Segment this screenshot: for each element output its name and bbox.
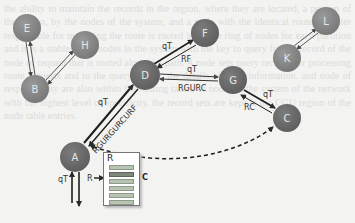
edge-label-d-f-query: qT bbox=[162, 42, 172, 51]
edge-label-a-in-query: qT bbox=[58, 175, 68, 184]
routing-table-title: R bbox=[107, 153, 113, 163]
edge-label-a-d-query: qT bbox=[98, 98, 108, 107]
svg-text:C: C bbox=[284, 113, 291, 124]
edge-label-a-out-response: R bbox=[87, 174, 93, 183]
svg-text:E: E bbox=[24, 23, 30, 34]
edge-d-g: qT RGURC bbox=[160, 65, 218, 93]
node-k[interactable]: K bbox=[273, 44, 301, 72]
node-l[interactable]: L bbox=[312, 7, 340, 35]
svg-text:A: A bbox=[72, 152, 79, 163]
table-row bbox=[109, 179, 134, 184]
node-e[interactable]: E bbox=[13, 14, 41, 42]
edge-label-d-f-response: RF bbox=[181, 55, 192, 64]
edge-label-g-c-query: qT bbox=[263, 90, 273, 99]
edge-label-d-g-response: RGURC bbox=[178, 84, 207, 93]
table-row bbox=[109, 186, 134, 191]
svg-text:K: K bbox=[284, 53, 291, 64]
svg-text:F: F bbox=[202, 28, 208, 39]
edge-e-b bbox=[26, 42, 35, 76]
svg-text:B: B bbox=[32, 84, 39, 95]
svg-text:D: D bbox=[141, 70, 149, 81]
node-h[interactable]: H bbox=[71, 31, 99, 59]
edge-g-c: qT RC bbox=[241, 90, 275, 113]
edge-k-l bbox=[294, 29, 318, 49]
table-row bbox=[109, 193, 134, 198]
edge-d-f: qT RF bbox=[154, 40, 196, 68]
edge-label-d-g-query: qT bbox=[187, 65, 197, 74]
node-c[interactable]: C bbox=[273, 104, 301, 132]
node-d[interactable]: D bbox=[130, 60, 160, 90]
node-b[interactable]: B bbox=[21, 75, 49, 103]
routing-table: R bbox=[103, 152, 140, 206]
svg-text:H: H bbox=[81, 40, 89, 51]
edge-a-io: qT R bbox=[58, 172, 104, 206]
table-row bbox=[109, 200, 134, 205]
node-g[interactable]: G bbox=[219, 66, 247, 94]
svg-text:G: G bbox=[229, 75, 237, 86]
node-f[interactable]: F bbox=[191, 19, 219, 47]
svg-text:L: L bbox=[323, 16, 329, 27]
edge-a-d: qT RGURGURCURF bbox=[84, 85, 139, 155]
edge-label-a-d-response: RGURGURCURF bbox=[91, 103, 139, 155]
edge-b-h bbox=[46, 51, 75, 84]
table-row bbox=[109, 165, 134, 170]
table-row-selected bbox=[109, 172, 134, 177]
edge-label-g-c-response: RC bbox=[244, 103, 255, 112]
selected-row-label: C bbox=[142, 173, 148, 182]
node-a[interactable]: A bbox=[60, 142, 90, 172]
network-diagram: qT RGURGURCURF qT RF qT RGURC qT RC qT R… bbox=[0, 0, 355, 223]
